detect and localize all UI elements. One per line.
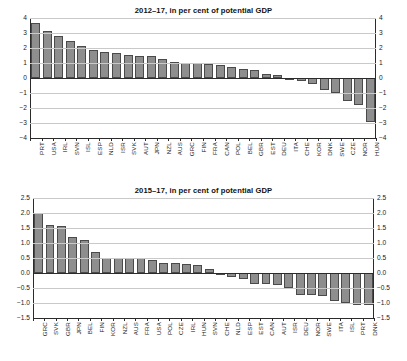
plot-area-top: 4433221100−1−1−2−2−3−3−4−4	[30, 18, 376, 138]
y-tick-label: 3	[379, 30, 383, 37]
y-tick-label: 2.5	[377, 195, 386, 202]
x-tick-label: CAN	[268, 322, 275, 336]
bar	[124, 55, 133, 78]
x-tick-label: JPN	[75, 322, 82, 334]
x-tick-label: POL	[234, 142, 241, 155]
x-tick-label: CHE	[223, 322, 230, 336]
y-tick-label: 1.5	[377, 225, 386, 232]
x-axis-labels-bottom: GRCSVKGBRJPNBELFINKORNZLAUSFRAUSAPOLCZEI…	[0, 322, 407, 361]
bar	[250, 273, 259, 284]
x-tick-label: PRT	[359, 322, 366, 335]
bar	[102, 258, 111, 273]
bar	[307, 273, 316, 295]
y-tick-label: 0	[23, 75, 27, 82]
x-tick-label: GRC	[188, 142, 195, 156]
bar	[135, 56, 144, 79]
gridline	[30, 93, 376, 94]
x-tick-label: DNK	[326, 142, 333, 156]
x-tick-label: CHE	[303, 142, 310, 156]
x-tick-label: FRA	[211, 142, 218, 155]
bar	[148, 260, 157, 273]
bar	[216, 65, 225, 79]
x-tick-label: ITA	[337, 322, 344, 332]
bar	[239, 69, 248, 78]
gridline	[30, 63, 376, 64]
x-tick-label: AUT	[280, 322, 287, 335]
bar	[112, 53, 121, 79]
x-tick-label: ESP	[246, 322, 253, 335]
x-tick-label: USA	[50, 142, 57, 155]
x-tick-label: NZL	[121, 322, 128, 334]
x-tick-label: SVK	[130, 142, 137, 155]
x-tick-label: AUT	[142, 142, 149, 155]
y-tick-label: 1.0	[21, 240, 30, 247]
bar	[57, 226, 66, 273]
y-tick-label: 0	[379, 75, 383, 82]
x-tick-label: GBR	[64, 322, 71, 336]
bar	[171, 263, 180, 273]
gridline	[33, 303, 374, 304]
x-tick-label: ESP	[96, 142, 103, 155]
bar	[114, 258, 123, 273]
x-tick-label: SVK	[52, 322, 59, 335]
x-axis-ticks-bottom	[0, 318, 407, 321]
y-tick-label: 1	[23, 60, 27, 67]
gridline	[30, 18, 376, 19]
y-tick-label: −3	[19, 120, 27, 127]
y-tick-label: 1.0	[377, 240, 386, 247]
bar	[320, 78, 329, 90]
gridline	[33, 258, 374, 259]
x-tick-label: AUS	[176, 142, 183, 155]
bar	[182, 264, 191, 273]
x-tick-label: POL	[166, 322, 173, 335]
bar	[273, 273, 282, 285]
plot-wrap-top: 4433221100−1−1−2−2−3−3−4−4 PRTUSAIRLSVNI…	[0, 18, 407, 140]
bar	[91, 252, 100, 273]
x-tick-label: EST	[269, 142, 276, 155]
gridline	[30, 108, 376, 109]
zero-line	[33, 273, 374, 274]
figure-container: 2012–17, in per cent of potential GDP 44…	[0, 0, 407, 361]
gridline	[30, 48, 376, 49]
bar	[54, 36, 63, 78]
x-tick-label: KOR	[109, 322, 116, 336]
gridline	[30, 33, 376, 34]
y-tick-label: 0.5	[377, 255, 386, 262]
x-tick-label: ISL	[84, 142, 91, 152]
x-tick-label: JPN	[153, 142, 160, 154]
bar	[284, 273, 293, 288]
bar	[227, 67, 236, 78]
x-tick-label: FRA	[143, 322, 150, 335]
x-tick-label: IRL	[61, 142, 68, 152]
bar	[46, 225, 55, 273]
y-tick-label: 0.0	[377, 270, 386, 277]
bar	[331, 78, 340, 93]
y-tick-label: 4	[379, 15, 383, 22]
x-tick-label: NOR	[314, 322, 321, 336]
x-tick-label: BEL	[246, 142, 253, 154]
x-tick-label: NLD	[107, 142, 114, 155]
x-tick-label: AUS	[132, 322, 139, 335]
bar	[193, 265, 202, 273]
x-tick-label: FIN	[200, 142, 207, 153]
y-tick-label: 0.5	[21, 255, 30, 262]
chart-panel-top: 2012–17, in per cent of potential GDP 44…	[0, 0, 407, 180]
y-tick-label: −1	[379, 90, 387, 97]
chart-title-bottom: 2015–17, in per cent of potential GDP	[0, 180, 407, 195]
bar	[159, 263, 168, 273]
gridline	[33, 213, 374, 214]
x-tick-label: EST	[257, 322, 264, 335]
plot-area-bottom: 2.52.52.02.01.51.51.01.00.50.50.00.0−0.5…	[33, 198, 374, 318]
y-tick-label: 0.0	[21, 270, 30, 277]
y-tick-label: 1.5	[21, 225, 30, 232]
y-tick-label: 2	[379, 45, 383, 52]
x-tick-label: GRC	[41, 322, 48, 336]
x-tick-label: DEU	[302, 322, 309, 336]
x-tick-label: BEL	[86, 322, 93, 334]
bar	[366, 78, 375, 122]
x-tick-label: HUN	[373, 142, 380, 156]
y-tick-label: 2.0	[377, 210, 386, 217]
y-tick-label: 1	[379, 60, 383, 67]
y-tick-label: 3	[23, 30, 27, 37]
y-tick-label: 2.5	[21, 195, 30, 202]
